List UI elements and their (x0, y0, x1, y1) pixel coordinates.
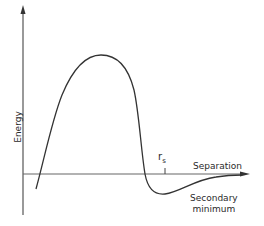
secondary-minimum-line1: Secondary (190, 193, 238, 204)
energy-curve (36, 55, 242, 194)
rs-sub: s (162, 157, 166, 165)
x-axis-arrow-icon (240, 172, 250, 177)
secondary-minimum-label: Secondary minimum (190, 193, 238, 215)
secondary-minimum-line2: minimum (190, 204, 238, 215)
x-axis-label: Separation (193, 161, 242, 171)
y-axis-label: Energy (13, 107, 23, 147)
rs-label: rs (158, 152, 166, 166)
energy-diagram: Energy Separation rs Secondary minimum (0, 0, 264, 226)
y-axis-arrow-icon (21, 5, 26, 14)
